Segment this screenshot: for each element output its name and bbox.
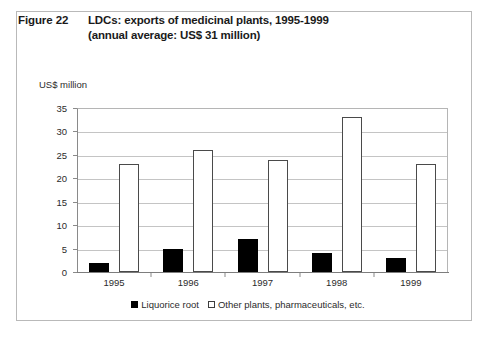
bar xyxy=(163,249,183,272)
bar xyxy=(89,263,109,272)
legend-label: Liquorice root xyxy=(141,299,199,310)
y-tick-label: 35 xyxy=(12,103,72,114)
bar xyxy=(193,150,213,272)
legend-swatch-icon xyxy=(131,301,138,308)
y-tick-label: 20 xyxy=(12,173,72,184)
y-tick-label: 10 xyxy=(12,220,72,231)
x-tick-label: 1999 xyxy=(400,277,421,288)
x-tick-label: 1997 xyxy=(252,277,273,288)
figure-title-line-1: LDCs: exports of medicinal plants, 1995-… xyxy=(88,13,329,28)
y-tick-label: 5 xyxy=(12,243,72,254)
figure-number: Figure 22 xyxy=(18,13,88,28)
bar xyxy=(268,160,288,272)
x-tick-label: 1995 xyxy=(104,277,125,288)
y-tick-label: 25 xyxy=(12,149,72,160)
y-axis-unit-label: US$ million xyxy=(39,79,87,90)
y-tick-label: 15 xyxy=(12,196,72,207)
bar xyxy=(386,258,406,272)
chart-bars xyxy=(77,108,449,272)
figure-title-line-2: (annual average: US$ 31 million) xyxy=(88,28,329,43)
y-tick-label: 0 xyxy=(12,267,72,278)
figure-title-block: Figure 22 LDCs: exports of medicinal pla… xyxy=(18,13,438,43)
chart-legend: Liquorice rootOther plants, pharmaceutic… xyxy=(0,299,496,310)
bar xyxy=(119,164,139,272)
legend-item: Liquorice root xyxy=(131,299,199,310)
y-tick-label: 30 xyxy=(12,126,72,137)
legend-label: Other plants, pharmaceuticals, etc. xyxy=(218,299,365,310)
x-tick-label: 1996 xyxy=(178,277,199,288)
bar xyxy=(312,253,332,272)
chart-x-axis-labels: 19951996199719981999 xyxy=(77,277,449,293)
bar xyxy=(342,117,362,272)
figure-title: LDCs: exports of medicinal plants, 1995-… xyxy=(88,13,329,43)
legend-swatch-icon xyxy=(208,301,215,308)
bar xyxy=(416,164,436,272)
x-tick-label: 1998 xyxy=(326,277,347,288)
chart-y-axis-labels: 05101520253035 xyxy=(12,108,72,272)
bar xyxy=(238,239,258,272)
legend-item: Other plants, pharmaceuticals, etc. xyxy=(208,299,365,310)
